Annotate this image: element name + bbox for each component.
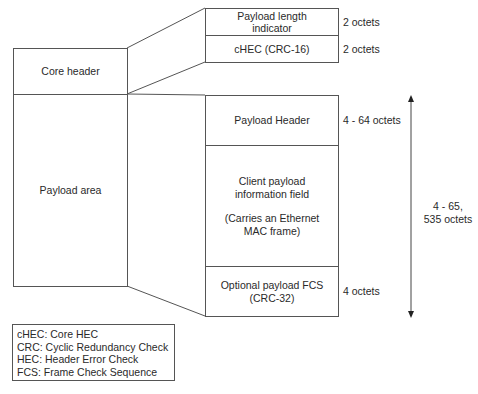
payload-header-label: Payload Header <box>234 114 309 127</box>
pli-label-line1: Payload length <box>237 10 306 23</box>
legend-item: HEC: Header Error Check <box>17 353 170 366</box>
fcs-label-line1: Optional payload FCS <box>221 279 324 292</box>
client-payload-line1: Client payload <box>239 175 306 188</box>
double-arrow-icon <box>408 95 414 318</box>
payload-area-box: Payload area <box>13 94 128 287</box>
chec-size: 2 octets <box>343 43 380 56</box>
client-payload-line2: information field <box>235 188 309 201</box>
chec-box: cHEC (CRC-16) <box>205 35 339 63</box>
client-payload-line3: (Carries an Ethernet <box>225 212 320 225</box>
legend-item: cHEC: Core HEC <box>17 328 170 341</box>
pli-size: 2 octets <box>343 16 380 29</box>
payload-header-box: Payload Header <box>205 95 339 146</box>
fcs-size: 4 octets <box>343 285 380 298</box>
payload-length-indicator-box: Payload length indicator <box>205 8 339 36</box>
client-payload-box: Client payload information field (Carrie… <box>205 145 339 267</box>
total-range-line1: 4 - 65, <box>418 200 478 213</box>
core-header-box: Core header <box>13 48 128 95</box>
total-range-label: 4 - 65, 535 octets <box>418 200 478 225</box>
core-header-label: Core header <box>41 65 99 78</box>
legend-item: CRC: Cyclic Redundancy Check <box>17 341 170 354</box>
client-payload-line4: MAC frame) <box>244 225 301 238</box>
optional-fcs-box: Optional payload FCS (CRC-32) <box>205 266 339 317</box>
legend-item: FCS: Frame Check Sequence <box>17 366 170 379</box>
payload-header-size: 4 - 64 octets <box>343 114 401 127</box>
payload-area-label: Payload area <box>40 184 102 197</box>
total-range-line2: 535 octets <box>418 213 478 226</box>
fcs-label-line2: (CRC-32) <box>250 292 295 305</box>
chec-label: cHEC (CRC-16) <box>234 43 309 56</box>
legend-box: cHEC: Core HEC CRC: Cyclic Redundancy Ch… <box>12 324 175 381</box>
pli-label-line2: indicator <box>252 22 292 35</box>
